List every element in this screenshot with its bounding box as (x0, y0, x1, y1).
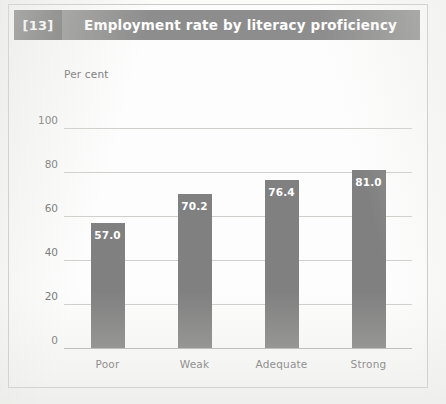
gridline-0 (64, 348, 412, 349)
bar-weak[interactable]: 70.2 (178, 194, 212, 348)
bar-slot: 76.4Adequate (238, 128, 325, 348)
chart-area: Per cent 020406080100 57.0Poor70.2Weak76… (38, 56, 420, 382)
bar-value-label: 70.2 (178, 200, 212, 212)
y-axis-unit-label: Per cent (64, 68, 109, 80)
x-category-label-strong: Strong (351, 358, 387, 370)
y-tick-label-40: 40 (45, 247, 58, 258)
y-tick-label-60: 60 (45, 203, 58, 214)
figure-title: Employment rate by literacy proficiency (84, 17, 397, 33)
plot-area: 020406080100 57.0Poor70.2Weak76.4Adequat… (64, 128, 412, 348)
bars-group: 57.0Poor70.2Weak76.4Adequate81.0Strong (64, 128, 412, 348)
y-tick-label-80: 80 (45, 159, 58, 170)
x-category-label-adequate: Adequate (255, 358, 307, 370)
figure-number-label: [13] (22, 18, 53, 33)
bar-value-label: 81.0 (352, 176, 386, 188)
figure-header-band: [13] Employment rate by literacy profici… (14, 10, 420, 40)
bar-value-label: 57.0 (91, 229, 125, 241)
y-tick-label-20: 20 (45, 291, 58, 302)
bar-adequate[interactable]: 76.4 (265, 180, 299, 348)
figure-number-block: [13] (14, 10, 62, 40)
y-tick-label-0: 0 (51, 335, 58, 346)
bar-slot: 57.0Poor (64, 128, 151, 348)
bar-value-label: 76.4 (265, 186, 299, 198)
bar-slot: 70.2Weak (151, 128, 238, 348)
bar-slot: 81.0Strong (325, 128, 412, 348)
y-tick-label-100: 100 (38, 115, 58, 126)
x-category-label-poor: Poor (96, 358, 120, 370)
bar-strong[interactable]: 81.0 (352, 170, 386, 348)
x-category-label-weak: Weak (180, 358, 210, 370)
page-background: [13] Employment rate by literacy profici… (0, 0, 446, 404)
bar-poor[interactable]: 57.0 (91, 223, 125, 348)
